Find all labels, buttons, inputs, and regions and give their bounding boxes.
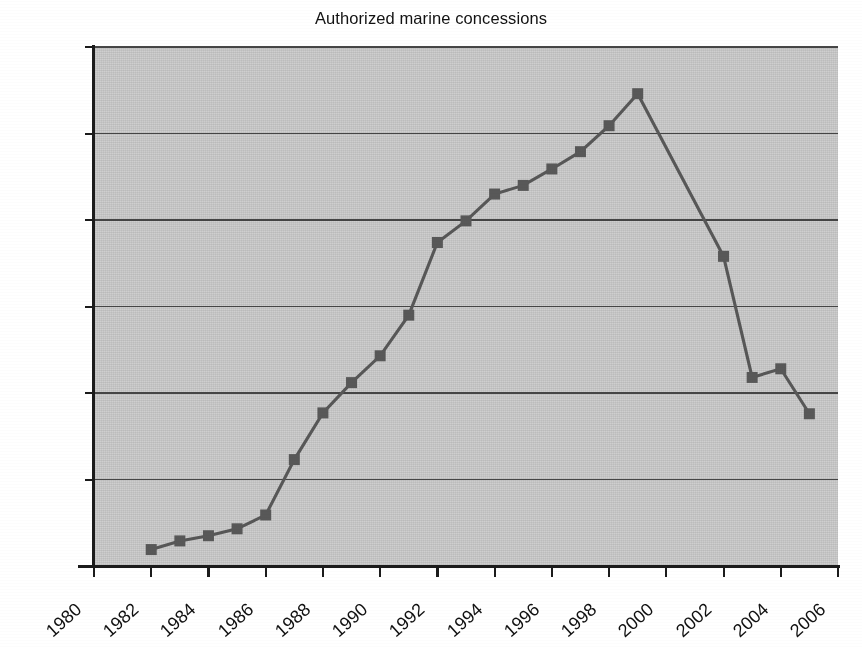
series-line bbox=[151, 94, 809, 550]
data-point-marker bbox=[375, 350, 386, 361]
data-point-marker bbox=[489, 189, 500, 200]
data-point-marker bbox=[718, 251, 729, 262]
data-point-marker bbox=[518, 180, 529, 191]
data-point-marker bbox=[403, 310, 414, 321]
data-series-layer bbox=[0, 0, 862, 647]
data-point-marker bbox=[804, 408, 815, 419]
data-point-marker bbox=[604, 120, 615, 131]
data-point-marker bbox=[632, 88, 643, 99]
data-point-marker bbox=[432, 237, 443, 248]
data-point-marker bbox=[747, 372, 758, 383]
data-point-marker bbox=[232, 523, 243, 534]
data-point-marker bbox=[775, 363, 786, 374]
data-point-marker bbox=[146, 544, 157, 555]
data-point-marker bbox=[260, 509, 271, 520]
data-point-marker bbox=[461, 215, 472, 226]
data-point-marker bbox=[203, 530, 214, 541]
data-point-marker bbox=[546, 163, 557, 174]
data-point-marker bbox=[174, 535, 185, 546]
chart-figure: Authorized marine concessions 3,0002,500… bbox=[0, 0, 862, 647]
data-point-marker bbox=[575, 146, 586, 157]
data-point-marker bbox=[317, 407, 328, 418]
data-point-marker bbox=[346, 377, 357, 388]
data-point-marker bbox=[289, 454, 300, 465]
